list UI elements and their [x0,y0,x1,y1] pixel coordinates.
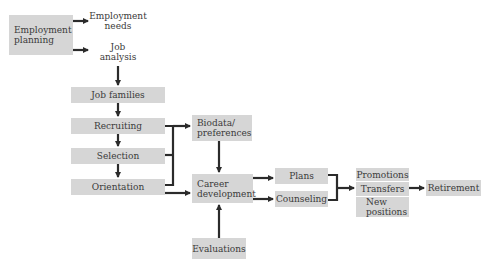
node-label: Recruiting [94,121,142,131]
node-label: Transfers [361,184,405,194]
node-retirement: Retirement [426,180,481,196]
node-label: Counseling [276,194,327,204]
node-label: Promotions [356,170,408,180]
node-counseling: Counseling [275,191,328,207]
node-plans: Plans [275,168,328,184]
node-biodata-preferences: Biodata/ preferences [192,115,252,141]
node-new-positions: New positions [356,197,409,217]
node-transfers: Transfers [356,182,409,196]
node-selection: Selection [71,148,165,164]
node-career-development: Career development [192,174,253,203]
node-orientation: Orientation [71,179,165,195]
node-label: Employment planning [14,25,73,45]
node-label: Orientation [92,182,144,192]
flow-diagram: Employment planning Employment needs Job… [0,0,489,265]
node-label: Biodata/ preferences [197,118,252,138]
node-label: Career development [197,179,256,199]
node-promotions: Promotions [356,168,409,181]
node-label: Selection [97,151,139,161]
node-label: New positions [366,197,409,217]
node-label: Evaluations [192,244,245,254]
node-evaluations: Evaluations [192,238,246,259]
node-employment-needs: Employment needs [88,11,148,31]
node-job-families: Job families [71,87,165,103]
node-job-analysis: Job analysis [93,42,143,62]
node-label: Retirement [428,183,480,193]
node-employment-planning: Employment planning [9,15,73,55]
node-recruiting: Recruiting [71,118,165,134]
node-label: Job families [91,90,144,100]
node-label: Plans [289,171,314,181]
